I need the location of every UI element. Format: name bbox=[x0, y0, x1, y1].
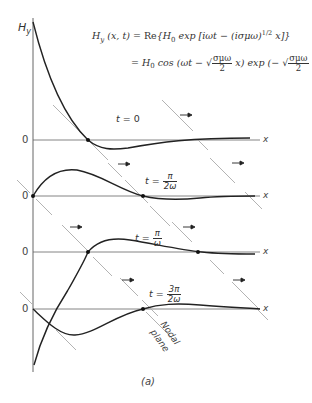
time-label-t0-value: 0 bbox=[134, 113, 140, 124]
time-label-t-3pi-2w: t = 3π2ω bbox=[149, 285, 181, 303]
equation-line-2: = H0 cos (ωt − √σμω2 x) exp (− √σμω2 x) bbox=[131, 54, 311, 72]
sqrt-2: √σμω2 bbox=[282, 57, 308, 68]
curve-t-pi-w-lower bbox=[34, 290, 68, 365]
x-label-t-pi-2w: x bbox=[263, 191, 268, 200]
eq-power: 1/2 bbox=[262, 29, 272, 37]
eq-tail: x]} bbox=[272, 30, 290, 41]
eq2-mid: x) exp (− bbox=[232, 57, 282, 68]
zero-label-t-pi-w: 0 bbox=[22, 247, 28, 257]
time-label-t-pi-2w: t = π2ω bbox=[145, 172, 177, 190]
figure-caption: (a) bbox=[141, 377, 155, 387]
eq2-eq: = H bbox=[131, 57, 150, 68]
eq-re: Re bbox=[144, 30, 157, 41]
time-label-t0: t = 0 bbox=[116, 114, 140, 124]
eq2-tail: x) bbox=[309, 57, 312, 68]
x-label-t-pi-w: x bbox=[263, 247, 268, 256]
sqrt2-den: 2 bbox=[288, 64, 308, 73]
eq-exp: exp [iωt − (iσμω) bbox=[176, 30, 262, 41]
zero-label-t-3pi-2w: 0 bbox=[22, 304, 28, 314]
y-axis-label: Hy bbox=[18, 22, 31, 36]
time-label-t-pi-w: t = πω bbox=[135, 229, 162, 247]
time-label-pre: t = bbox=[145, 175, 163, 186]
eq-body: {H bbox=[157, 30, 171, 41]
time-label-pre: t = bbox=[149, 288, 167, 299]
eq-args: (x, t) = bbox=[104, 30, 144, 41]
frac-den: ω bbox=[153, 239, 162, 248]
frac-den: 2ω bbox=[167, 295, 182, 304]
frac-den: 2ω bbox=[163, 182, 178, 191]
time-label-t0-pre: t = bbox=[116, 113, 134, 124]
x-label-t0: x bbox=[263, 135, 268, 144]
y-axis-label-sub: y bbox=[26, 27, 31, 36]
zero-label-t0: 0 bbox=[22, 135, 28, 145]
x-label-t-3pi-2w: x bbox=[263, 304, 268, 313]
sqrt-1: √σμω2 bbox=[206, 57, 232, 68]
equation-line-1: Hy (x, t) = Re{H0 exp [iωt − (iσμω)1/2 x… bbox=[92, 30, 290, 44]
zero-label-t-pi-2w: 0 bbox=[22, 191, 28, 201]
sqrt1-den: 2 bbox=[212, 64, 232, 73]
time-label-pre: t = bbox=[135, 232, 153, 243]
eq2-cos: cos (ωt − bbox=[155, 57, 206, 68]
